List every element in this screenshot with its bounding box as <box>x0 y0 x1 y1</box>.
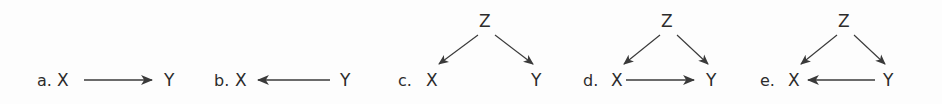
node-y-c: Y <box>530 70 542 90</box>
node-y-a: Y <box>163 70 175 90</box>
node-x-a: X <box>57 70 69 90</box>
node-y-d: Y <box>705 70 717 90</box>
panel-e: e. X Y Z <box>748 0 942 104</box>
causal-diagram-figure: a. X Y b. X Y c. X <box>0 0 942 104</box>
panel-d-canvas: d. X Y Z <box>570 0 755 104</box>
panel-label-d: d. <box>583 71 598 90</box>
panel-b: b. X Y <box>200 0 390 104</box>
edge-z-to-x-c <box>439 35 478 64</box>
edge-z-to-y-e <box>854 35 885 64</box>
node-x-d: X <box>611 70 623 90</box>
panel-c-canvas: c. X Y Z <box>390 0 580 104</box>
edge-z-to-y-d <box>677 35 708 64</box>
panel-a: a. X Y <box>0 0 200 104</box>
node-y-b: Y <box>339 70 351 90</box>
node-y-e: Y <box>882 70 894 90</box>
edge-z-to-y-c <box>495 35 533 64</box>
panel-d: d. X Y Z <box>570 0 755 104</box>
node-x-c: X <box>426 70 438 90</box>
panel-a-canvas: a. X Y <box>0 0 200 104</box>
node-x-b: X <box>235 70 247 90</box>
panel-e-canvas: e. X Y Z <box>748 0 942 104</box>
panel-label-a: a. <box>37 71 52 90</box>
node-z-d: Z <box>661 11 673 31</box>
panel-b-canvas: b. X Y <box>200 0 390 104</box>
edge-z-to-x-e <box>801 35 837 64</box>
node-x-e: X <box>788 70 800 90</box>
panel-c: c. X Y Z <box>390 0 580 104</box>
edge-z-to-x-d <box>624 35 660 64</box>
panel-label-c: c. <box>398 71 412 90</box>
node-z-c: Z <box>479 11 491 31</box>
node-z-e: Z <box>838 11 850 31</box>
panel-label-b: b. <box>214 71 229 90</box>
panel-label-e: e. <box>760 71 775 90</box>
